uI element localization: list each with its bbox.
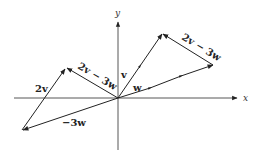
x-axis-label: x	[243, 93, 248, 103]
label-w: w	[132, 82, 142, 93]
label-2v-minus-3w-left: 2v − 3w	[76, 60, 119, 92]
label-v: v	[120, 69, 128, 80]
vector-2v-left	[22, 69, 65, 130]
label-2v: 2v	[35, 83, 49, 94]
vector-diagram: x y v w 2v −3w 2v − 3w 2v − 3w	[0, 0, 260, 159]
y-axis-label: y	[114, 8, 121, 18]
label-2v-minus-3w-right: 2v − 3w	[180, 31, 223, 63]
label-neg-3w: −3w	[62, 117, 86, 128]
